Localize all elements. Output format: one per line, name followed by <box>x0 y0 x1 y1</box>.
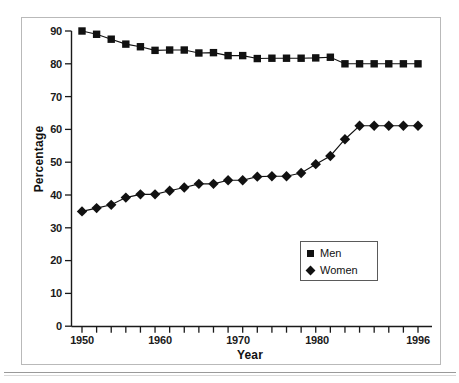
data-point-marker <box>137 43 144 50</box>
data-point-marker <box>384 121 394 131</box>
data-point-marker <box>238 175 248 185</box>
data-point-marker <box>296 168 306 178</box>
data-point-marker <box>254 55 261 62</box>
data-point-marker <box>267 171 277 181</box>
data-point-marker <box>283 55 290 62</box>
data-point-marker <box>369 121 379 131</box>
y-axis-ticks <box>65 31 72 326</box>
data-point-marker <box>356 60 363 67</box>
chart-legend: Men Women <box>300 241 378 281</box>
y-tick-label-10: 10 <box>36 287 62 299</box>
chart-plot-area <box>0 0 459 383</box>
x-axis-title: Year <box>200 348 300 362</box>
data-point-marker <box>151 47 158 54</box>
data-point-marker <box>135 189 145 199</box>
x-tick-label-1950: 1950 <box>60 334 104 346</box>
data-point-marker <box>268 55 275 62</box>
diamond-marker-icon <box>306 265 316 275</box>
page-rule-divider-shadow <box>4 375 456 376</box>
x-tick-label-1980: 1980 <box>295 334 339 346</box>
data-point-marker <box>166 46 173 53</box>
data-point-marker <box>77 206 87 216</box>
data-point-marker <box>122 40 129 47</box>
data-point-marker <box>164 186 174 196</box>
data-point-marker <box>106 200 116 210</box>
data-point-marker <box>281 171 291 181</box>
data-point-marker <box>121 192 131 202</box>
y-tick-label-0: 0 <box>36 320 62 332</box>
series-men <box>78 27 421 67</box>
data-point-marker <box>194 179 204 189</box>
data-point-marker <box>150 189 160 199</box>
data-point-marker <box>224 52 231 59</box>
data-point-marker <box>252 171 262 181</box>
data-point-marker <box>210 49 217 56</box>
chart-series-layer <box>77 27 423 216</box>
y-tick-label-30: 30 <box>36 222 62 234</box>
data-point-marker <box>400 60 407 67</box>
legend-item-men: Men <box>307 245 341 261</box>
data-point-marker <box>208 179 218 189</box>
y-tick-label-20: 20 <box>36 254 62 266</box>
data-point-marker <box>311 159 321 169</box>
data-point-marker <box>341 60 348 67</box>
data-point-marker <box>413 121 423 131</box>
y-axis-title: Percentage <box>32 114 46 204</box>
legend-label-men: Men <box>320 248 341 259</box>
data-point-marker <box>195 49 202 56</box>
data-point-marker <box>223 175 233 185</box>
page-rule-divider <box>4 372 456 373</box>
data-point-marker <box>239 52 246 59</box>
data-point-marker <box>78 27 85 34</box>
x-tick-label-1996: 1996 <box>396 334 440 346</box>
x-tick-label-1960: 1960 <box>138 334 182 346</box>
data-point-marker <box>108 36 115 43</box>
data-point-marker <box>398 121 408 131</box>
data-point-marker <box>385 60 392 67</box>
data-point-marker <box>414 60 421 67</box>
data-point-marker <box>297 55 304 62</box>
y-tick-label-90: 90 <box>36 25 62 37</box>
y-tick-label-80: 80 <box>36 58 62 70</box>
data-point-marker <box>312 54 319 61</box>
legend-label-women: Women <box>320 265 358 276</box>
y-tick-label-70: 70 <box>36 91 62 103</box>
data-point-marker <box>181 46 188 53</box>
square-marker-icon <box>307 250 314 257</box>
x-tick-label-1970: 1970 <box>216 334 260 346</box>
legend-item-women: Women <box>307 262 358 278</box>
data-point-marker <box>179 182 189 192</box>
data-point-marker <box>327 54 334 61</box>
series-women <box>77 121 423 217</box>
data-point-marker <box>93 31 100 38</box>
data-point-marker <box>370 60 377 67</box>
data-point-marker <box>91 203 101 213</box>
